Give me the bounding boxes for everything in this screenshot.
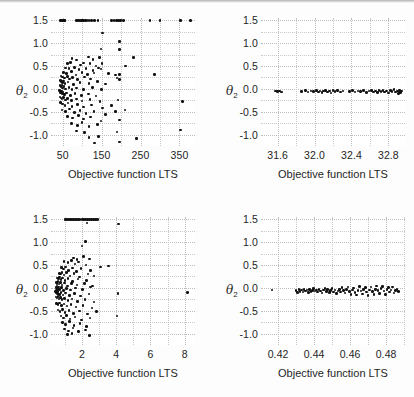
data-point <box>76 103 79 106</box>
x-tick-labels-bottom-right: 0.420.440.460.48 <box>213 348 414 364</box>
data-point <box>72 327 75 330</box>
data-point <box>107 265 110 268</box>
data-point <box>74 92 77 95</box>
gridline-horizontal <box>51 43 195 44</box>
data-point <box>82 304 85 307</box>
data-point <box>388 291 391 294</box>
data-point <box>89 116 92 119</box>
x-tick-label: 2 <box>79 348 85 360</box>
y-tick-label: -1.0 <box>216 328 258 340</box>
y-tick-label: 1.5 <box>3 213 48 225</box>
gridline-horizontal-minor <box>51 123 195 124</box>
data-point <box>79 322 82 325</box>
data-point <box>70 122 73 125</box>
data-point <box>118 119 121 122</box>
data-point <box>72 83 75 86</box>
data-point <box>69 61 72 64</box>
data-point <box>88 125 91 128</box>
gridline-vertical-minor <box>296 217 297 345</box>
data-point <box>387 286 390 289</box>
data-point <box>70 70 73 73</box>
data-point <box>89 269 92 272</box>
data-point <box>101 107 104 110</box>
data-point <box>65 271 68 274</box>
y-tick-labels-top-left: 1.51.00.50.0-0.5-1.0 <box>0 0 48 198</box>
panel-top-right: θ2 1.51.00.50.0-0.5-1.0 31.632.032.432.8… <box>213 0 414 198</box>
data-point <box>64 292 67 295</box>
data-point <box>61 308 64 311</box>
data-point <box>114 110 117 113</box>
gridline-vertical <box>141 18 142 146</box>
data-point <box>77 114 80 117</box>
gridline-horizontal-minor <box>51 276 195 277</box>
data-point <box>68 108 71 111</box>
data-point <box>387 92 390 95</box>
data-point <box>89 286 92 289</box>
data-point <box>66 97 69 100</box>
data-point <box>82 255 85 258</box>
x-axis-title-bottom-right: Objective function LTS <box>261 367 405 379</box>
panel-bottom-left: θ2 1.51.00.50.0-0.5-1.0 2468 Objective f… <box>0 199 213 397</box>
data-point <box>122 19 125 22</box>
data-point <box>66 115 69 118</box>
data-point <box>189 19 192 22</box>
y-tick-label: -1.0 <box>216 129 258 141</box>
data-point <box>300 90 303 93</box>
data-point <box>378 292 381 295</box>
x-tick-label: 32.8 <box>378 149 399 161</box>
data-point <box>75 98 78 101</box>
data-point <box>114 74 117 77</box>
data-point <box>118 73 121 76</box>
data-point <box>85 325 88 328</box>
data-point <box>117 292 120 295</box>
data-point <box>63 260 66 263</box>
data-point <box>65 287 68 290</box>
gridline-vertical <box>314 217 315 345</box>
data-point <box>104 113 107 116</box>
data-point <box>97 135 100 138</box>
gridline-vertical <box>185 217 186 345</box>
data-point <box>118 48 121 51</box>
y-tick-label: -0.5 <box>216 305 258 317</box>
plot-area-bottom-left <box>51 217 195 345</box>
y-tick-label: 0.0 <box>216 83 258 95</box>
data-point <box>335 292 338 295</box>
data-point <box>59 310 62 313</box>
data-point <box>91 307 94 310</box>
data-point <box>350 293 353 296</box>
data-point <box>98 56 101 59</box>
data-point <box>107 72 110 75</box>
data-point <box>64 104 67 107</box>
gridline-vertical <box>150 217 151 345</box>
data-point <box>63 297 66 300</box>
gridline-vertical-minor <box>296 18 297 146</box>
data-point <box>93 110 96 113</box>
data-point <box>391 286 394 289</box>
x-tick-labels-bottom-left: 2468 <box>0 348 213 364</box>
data-point <box>69 289 72 292</box>
gridline-vertical <box>388 18 389 146</box>
data-point <box>88 258 91 261</box>
gridline-vertical-minor <box>368 217 369 345</box>
data-point <box>62 317 65 320</box>
data-point <box>68 294 71 297</box>
data-point <box>91 86 94 89</box>
data-point <box>355 294 358 297</box>
gridline-vertical-minor <box>82 18 83 146</box>
data-point <box>344 292 347 295</box>
data-point <box>70 99 73 102</box>
gridline-horizontal-minor <box>51 231 195 232</box>
gridline-vertical <box>386 217 387 345</box>
y-tick-label: -0.5 <box>3 106 48 118</box>
data-point <box>75 130 78 133</box>
data-point <box>96 218 99 221</box>
x-tick-labels-top-left: 50150250350 <box>0 149 213 165</box>
data-point <box>82 88 85 91</box>
data-point <box>181 100 184 103</box>
data-point <box>74 316 77 319</box>
data-point <box>95 95 98 98</box>
y-tick-label: 1.5 <box>216 213 258 225</box>
x-tick-label: 150 <box>93 149 111 161</box>
y-tick-label: 0.5 <box>3 60 48 72</box>
data-point <box>80 319 83 322</box>
